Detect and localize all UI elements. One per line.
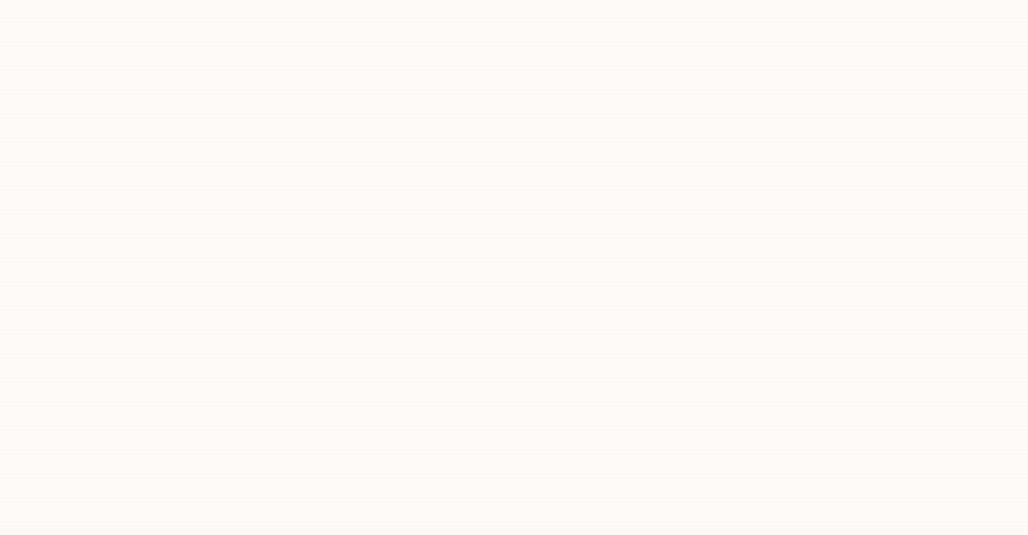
- legend-item: Entire Philippines: [767, 73, 981, 93]
- x-axis-tick-label: 1991: [65, 473, 103, 493]
- source-note: Source: Bangko Sentral ng Philippines: [56, 505, 390, 521]
- x-axis-tick-mark: [690, 463, 691, 470]
- chart-legend: Entire PhilippinesMetro ManilaOutcido Mo…: [750, 58, 984, 191]
- legend-label: Metro Manila: [820, 96, 918, 116]
- x-axis-tick-label: 1994: [966, 473, 1004, 493]
- legend-label: Outcido Motro Manila: [820, 119, 981, 159]
- y-axis-tick-label: 25%: [972, 30, 1028, 50]
- x-axis-line: [69, 463, 1000, 464]
- legend-color-swatch: [767, 99, 807, 116]
- x-axis-tick-mark: [1000, 463, 1001, 470]
- x-axis-tick-mark: [69, 463, 70, 470]
- chart-title: Inflation: [0, 0, 1028, 12]
- legend-color-swatch: [767, 122, 807, 139]
- legend-color-swatch: [767, 76, 807, 93]
- legend-label: Entire Philippines: [820, 73, 951, 93]
- legend-items-group: Entire PhilippinesMetro ManilaOutcido Mo…: [767, 73, 981, 162]
- y-axis-tick-label: 15%: [972, 199, 1028, 219]
- legend-item: Metro Manila: [767, 96, 981, 116]
- y-axis-line: [68, 41, 69, 464]
- x-axis-tick-label: 1993: [671, 473, 709, 493]
- y-axis-tick-label: 5%: [972, 368, 1028, 388]
- area-series: [69, 318, 1000, 463]
- x-axis-tick-label: 1992: [360, 473, 398, 493]
- legend-item: Outcido Motro Manila: [767, 119, 981, 159]
- x-axis-tick-mark: [379, 463, 380, 470]
- y-axis-tick-label: 10%: [972, 283, 1028, 303]
